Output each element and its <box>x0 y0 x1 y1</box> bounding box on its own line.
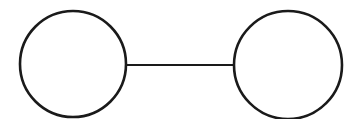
diagram-canvas <box>0 0 358 119</box>
node-left <box>20 11 126 117</box>
node-right <box>234 11 342 119</box>
